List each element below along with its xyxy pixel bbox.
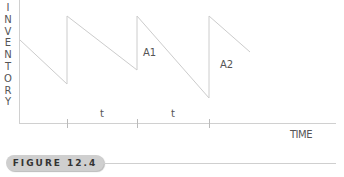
x-axis-label: TIME bbox=[290, 129, 312, 140]
label-t1: t bbox=[100, 108, 104, 119]
figure-caption-badge: FIGURE 12.4 bbox=[6, 155, 104, 171]
label-a2: A2 bbox=[220, 59, 233, 70]
label-a1: A1 bbox=[143, 47, 156, 58]
sawtooth-line bbox=[20, 16, 250, 98]
inventory-chart bbox=[0, 0, 344, 177]
caption-rule bbox=[104, 163, 336, 164]
figure-caption: FIGURE 12.4 bbox=[6, 155, 104, 171]
label-t2: t bbox=[171, 108, 175, 119]
